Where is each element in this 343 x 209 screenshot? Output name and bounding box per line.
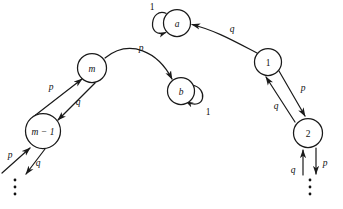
node-a-label: a	[175, 19, 180, 29]
edge-label-out-to-below-left: q	[36, 158, 41, 168]
edge-label-in-from-below-right: q	[291, 165, 296, 175]
ellipsis-dot	[309, 186, 312, 189]
edge-label-one-to-a: q	[230, 24, 235, 34]
edge-label-one-to-two: p	[300, 83, 306, 93]
diagram-canvas: a b m m − 1 1 2 1 1 p q p q p	[0, 0, 343, 209]
ellipsis-dot	[14, 193, 17, 196]
edge-m-to-b	[105, 49, 172, 79]
ellipsis-left	[14, 179, 17, 196]
edge-label-b-self: 1	[206, 107, 211, 117]
node-m[interactable]: m	[78, 54, 107, 83]
ellipsis-dot	[309, 193, 312, 196]
node-m-minus-1-label: m − 1	[32, 127, 55, 137]
node-m-minus-1[interactable]: m − 1	[26, 114, 61, 149]
node-2[interactable]: 2	[294, 119, 323, 148]
edge-one-to-a	[192, 25, 257, 54]
node-b-label: b	[179, 87, 184, 97]
edge-label-in-from-below-left: p	[7, 150, 13, 160]
edge-label-two-to-one: q	[274, 101, 279, 111]
edge-one-to-two	[279, 71, 305, 116]
edge-two-to-one	[266, 77, 295, 122]
ellipsis-dot	[309, 179, 312, 182]
node-a[interactable]: a	[164, 10, 191, 37]
edge-label-m-to-mminus1: q	[76, 97, 81, 107]
edge-label-m-to-b: p	[138, 43, 144, 53]
edge-label-a-self: 1	[150, 2, 155, 12]
state-transition-diagram: a b m m − 1 1 2 1 1 p q p q p	[0, 0, 343, 209]
edge-label-mminus1-to-m: p	[48, 82, 54, 92]
ellipsis-dot	[14, 186, 17, 189]
edge-in-from-below-left	[2, 148, 30, 173]
ellipsis-dot	[14, 179, 17, 182]
node-2-label: 2	[306, 129, 311, 139]
ellipsis-right	[309, 179, 312, 196]
node-1[interactable]: 1	[255, 49, 282, 76]
node-m-label: m	[89, 64, 96, 74]
edge-label-out-to-below-right: p	[322, 158, 328, 168]
node-1-label: 1	[266, 58, 271, 68]
node-b[interactable]: b	[168, 78, 195, 105]
